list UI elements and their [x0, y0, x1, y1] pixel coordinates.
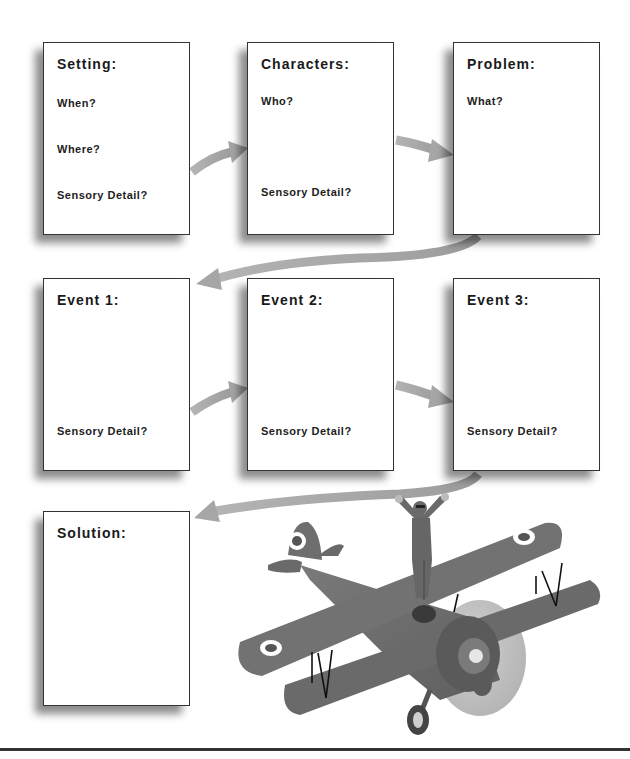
prompt-sensory-detail: Sensory Detail? [57, 425, 148, 437]
event2-box[interactable]: Event 2: Sensory Detail? [247, 278, 394, 471]
prompt-sensory-detail: Sensory Detail? [57, 189, 148, 201]
characters-box[interactable]: Characters: Who? Sensory Detail? [247, 42, 394, 235]
arrow-event1-to-event2 [192, 381, 248, 412]
prompt-sensory-detail: Sensory Detail? [467, 425, 558, 437]
setting-box[interactable]: Setting: When? Where? Sensory Detail? [43, 42, 190, 235]
box-title: Setting: [57, 56, 117, 72]
arrow-event3-to-solution [194, 474, 478, 522]
arrow-event2-to-event3 [396, 385, 454, 408]
prompt-when: When? [57, 97, 96, 109]
prompt-sensory-detail: Sensory Detail? [261, 425, 352, 437]
box-title: Problem: [467, 56, 536, 72]
problem-box[interactable]: Problem: What? [453, 42, 600, 235]
box-title: Event 3: [467, 292, 529, 308]
box-title: Characters: [261, 56, 350, 72]
event1-box[interactable]: Event 1: Sensory Detail? [43, 278, 190, 471]
event3-box[interactable]: Event 3: Sensory Detail? [453, 278, 600, 471]
box-title: Event 1: [57, 292, 119, 308]
bottom-divider [0, 748, 630, 751]
arrow-setting-to-characters [192, 141, 248, 172]
prompt-what: What? [467, 95, 503, 107]
prompt-where: Where? [57, 143, 100, 155]
biplane-illustration [238, 493, 600, 735]
prompt-sensory-detail: Sensory Detail? [261, 186, 352, 198]
arrow-characters-to-problem [396, 139, 454, 162]
box-title: Solution: [57, 525, 127, 541]
box-title: Event 2: [261, 292, 323, 308]
solution-box[interactable]: Solution: [43, 511, 190, 706]
prompt-who: Who? [261, 95, 294, 107]
